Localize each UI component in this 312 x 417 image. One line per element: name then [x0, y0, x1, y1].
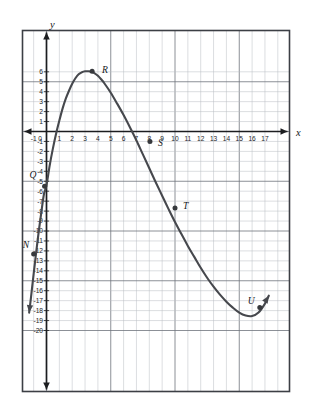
y-tick-label: -20: [33, 327, 43, 334]
point-label-r: R: [101, 64, 108, 75]
y-tick-label: 1: [39, 118, 43, 125]
data-point-t: [173, 206, 178, 211]
x-tick-label: 10: [171, 135, 179, 142]
point-label-u: U: [248, 295, 256, 306]
data-point-q: [42, 184, 47, 189]
data-point-r: [90, 69, 95, 74]
y-tick-label: -3: [37, 158, 43, 165]
x-tick-label: 11: [184, 135, 191, 142]
x-tick-label: 17: [261, 135, 269, 142]
coordinate-graph-figure: -101234567891011121314151617654321-1-2-3…: [0, 0, 312, 417]
x-tick-label: -1: [31, 135, 37, 142]
y-tick-label: -19: [33, 317, 43, 324]
point-label-t: T: [183, 200, 189, 211]
cubic-curve: [29, 71, 269, 316]
x-tick-label: 4: [96, 135, 100, 142]
y-tick-label: 5: [39, 78, 43, 85]
x-tick-label: 15: [236, 135, 244, 142]
y-tick-label: 4: [39, 88, 43, 95]
y-tick-label: -6: [37, 188, 43, 195]
y-tick-label: -15: [33, 277, 43, 284]
data-point-n: [31, 251, 36, 256]
x-tick-label: 1: [58, 135, 62, 142]
x-tick-label: 6: [122, 135, 126, 142]
x-tick-label: 2: [70, 135, 74, 142]
y-tick-label: -17: [33, 297, 43, 304]
y-tick-label: 6: [39, 68, 43, 75]
point-label-n: N: [22, 239, 30, 250]
x-tick-label: 3: [83, 135, 87, 142]
data-point-s: [147, 139, 152, 144]
x-axis-label: x: [295, 127, 301, 138]
data-point-u: [257, 305, 262, 310]
grid-layer: [23, 31, 290, 392]
point-label-s: S: [158, 137, 163, 148]
x-tick-label: 14: [223, 135, 231, 142]
x-tick-label: 16: [248, 135, 256, 142]
y-axis-label: y: [49, 19, 55, 30]
y-tick-label: 2: [39, 108, 43, 115]
x-tick-label: 13: [210, 135, 218, 142]
graph-svg: -101234567891011121314151617654321-1-2-3…: [0, 0, 312, 417]
x-tick-label: 5: [109, 135, 113, 142]
y-tick-label: -4: [37, 168, 43, 175]
y-tick-label: 3: [39, 98, 43, 105]
y-tick-label: -5: [37, 178, 43, 185]
point-label-q: Q: [30, 169, 37, 180]
x-tick-label: 12: [197, 135, 205, 142]
curve-layer: [27, 71, 269, 316]
y-tick-label: -2: [37, 148, 43, 155]
y-tick-label: -18: [33, 307, 43, 314]
y-tick-label: -1: [37, 138, 43, 145]
y-tick-label: -16: [33, 287, 43, 294]
